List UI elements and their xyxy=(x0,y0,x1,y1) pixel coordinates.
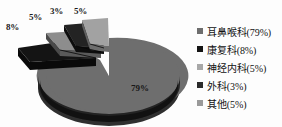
legend-swatch-icon xyxy=(197,46,203,52)
pie-chart-screenshot: 8% 5% 3% 5% 79% 耳鼻喉科(79%) 康复科(8%) 神经内科(5… xyxy=(0,0,282,127)
slice-value-label-qita: 5% xyxy=(74,6,87,16)
legend-swatch-icon xyxy=(197,28,203,34)
legend-swatch-icon xyxy=(197,64,203,70)
legend-item-shenjing[interactable]: 神经内科(5%) xyxy=(197,58,282,76)
slice-value-label-shenjing: 5% xyxy=(29,12,42,22)
pie-chart-plot-area: 8% 5% 3% 5% 79% xyxy=(0,0,196,127)
legend-label-ent: 耳鼻喉科(79%) xyxy=(207,24,271,39)
slice-value-label-waike: 3% xyxy=(50,6,63,16)
legend-swatch-icon xyxy=(197,82,203,88)
legend-item-ent[interactable]: 耳鼻喉科(79%) xyxy=(197,22,282,40)
slice-value-label-ent: 79% xyxy=(131,83,149,93)
slice-value-label-kangfu: 8% xyxy=(6,22,19,32)
legend-label-shenjing: 神经内科(5%) xyxy=(207,60,266,75)
legend-label-qita: 其他(5%) xyxy=(207,96,246,111)
legend-label-kangfu: 康复科(8%) xyxy=(207,42,256,57)
legend-item-qita[interactable]: 其他(5%) xyxy=(197,94,282,112)
legend-item-kangfu[interactable]: 康复科(8%) xyxy=(197,40,282,58)
chart-legend: 耳鼻喉科(79%) 康复科(8%) 神经内科(5%) 外科(3%) 其他(5%) xyxy=(197,22,282,122)
legend-label-waike: 外科(3%) xyxy=(207,78,246,93)
legend-item-waike[interactable]: 外科(3%) xyxy=(197,76,282,94)
legend-swatch-icon xyxy=(197,100,203,106)
